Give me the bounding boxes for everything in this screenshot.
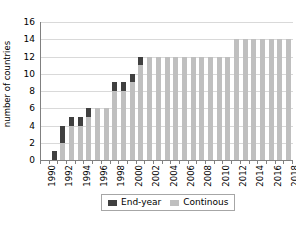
bar-group <box>199 57 204 161</box>
bar-segment-continuous <box>191 57 196 161</box>
bar-group <box>225 57 230 161</box>
x-tick-label: 2014 <box>256 165 265 187</box>
bar-group <box>60 126 65 161</box>
y-tick-label: 0 <box>29 156 35 165</box>
bar-segment-continuous <box>208 57 213 161</box>
x-tick-mark <box>275 160 276 164</box>
bar-segment-continuous <box>225 57 230 161</box>
bar-group <box>130 74 135 160</box>
bar-group <box>138 57 143 161</box>
bar-group <box>243 39 248 160</box>
bar-segment-continuous <box>138 65 143 160</box>
bar-group <box>78 117 83 160</box>
bar-segment-continuous <box>217 57 222 161</box>
bar-segment-continuous <box>156 57 161 161</box>
bar-group <box>182 57 187 161</box>
y-tick-label: 8 <box>29 87 35 96</box>
legend-entry: Continous <box>170 198 228 207</box>
bar-group <box>95 108 100 160</box>
bar-segment-continuous <box>251 39 256 160</box>
bar-segment-end-year <box>86 108 91 117</box>
x-tick-mark <box>188 160 189 164</box>
x-tick-label: 1996 <box>100 165 109 187</box>
continuous-swatch <box>170 200 179 206</box>
bar-group <box>52 151 57 160</box>
bar-group <box>112 82 117 160</box>
x-tick-mark <box>179 160 180 164</box>
y-tick-label: 14 <box>24 35 35 44</box>
x-tick-label: 2006 <box>187 165 196 187</box>
bar-segment-continuous <box>173 57 178 161</box>
bar-segment-end-year <box>78 117 83 126</box>
x-tick-mark <box>292 160 293 164</box>
bar-segment-continuous <box>199 57 204 161</box>
x-tick-label: 2008 <box>204 165 213 187</box>
x-tick-mark <box>162 160 163 164</box>
bar-segment-continuous <box>234 39 239 160</box>
y-axis-tick-labels: 0246810121416 <box>14 18 38 160</box>
bar-series-container <box>41 22 293 160</box>
bar-group <box>86 108 91 160</box>
plot-area <box>40 22 293 160</box>
bar-group <box>277 39 282 160</box>
bar-group <box>217 57 222 161</box>
bar-segment-continuous <box>243 39 248 160</box>
x-tick-mark <box>196 160 197 164</box>
legend-entry: End-year <box>108 198 161 207</box>
x-tick-mark <box>222 160 223 164</box>
bar-group <box>208 57 213 161</box>
x-tick-label: 1990 <box>48 165 57 187</box>
x-tick-mark <box>283 160 284 164</box>
bar-segment-continuous <box>147 57 152 161</box>
x-tick-label: 1994 <box>83 165 92 187</box>
x-tick-label: 2016 <box>274 165 283 187</box>
x-tick-mark <box>127 160 128 164</box>
y-tick-label: 4 <box>29 121 35 130</box>
x-tick-mark <box>249 160 250 164</box>
x-tick-label: 2010 <box>222 165 231 187</box>
bar-segment-continuous <box>130 82 135 160</box>
bar-segment-continuous <box>286 39 291 160</box>
bar-group <box>260 39 265 160</box>
x-tick-mark <box>40 160 41 164</box>
y-axis-title-label: number of countries <box>2 41 12 127</box>
bar-segment-end-year <box>52 151 57 160</box>
y-tick-label: 12 <box>24 52 35 61</box>
x-tick-label: 1992 <box>65 165 74 187</box>
bar-segment-continuous <box>112 91 117 160</box>
bar-segment-continuous <box>165 57 170 161</box>
x-tick-mark <box>205 160 206 164</box>
bar-group <box>191 57 196 161</box>
y-tick-label: 6 <box>29 104 35 113</box>
bar-segment-end-year <box>138 57 143 66</box>
bar-segment-end-year <box>60 126 65 143</box>
x-tick-mark <box>266 160 267 164</box>
bar-segment-continuous <box>86 117 91 160</box>
bar-chart: number of countries 0246810121416 199019… <box>0 0 296 228</box>
bar-segment-end-year <box>121 82 126 91</box>
x-tick-mark <box>101 160 102 164</box>
x-tick-label: 2012 <box>239 165 248 187</box>
bar-segment-continuous <box>260 39 265 160</box>
x-tick-mark <box>231 160 232 164</box>
x-tick-label: 2000 <box>135 165 144 187</box>
bar-segment-continuous <box>69 126 74 161</box>
x-tick-mark <box>66 160 67 164</box>
bar-group <box>156 57 161 161</box>
x-tick-mark <box>83 160 84 164</box>
x-tick-mark <box>170 160 171 164</box>
x-tick-mark <box>57 160 58 164</box>
x-tick-mark <box>49 160 50 164</box>
legend-label: End-year <box>121 198 161 207</box>
x-tick-label: 1998 <box>117 165 126 187</box>
x-tick-mark <box>136 160 137 164</box>
x-axis-tick-labels: 1990199219941996199820002002200420062008… <box>40 165 292 191</box>
bar-segment-continuous <box>277 39 282 160</box>
bar-segment-continuous <box>95 108 100 160</box>
legend-label: Continous <box>183 198 228 207</box>
x-tick-mark <box>257 160 258 164</box>
x-tick-mark <box>92 160 93 164</box>
y-tick-label: 10 <box>24 69 35 78</box>
bar-group <box>173 57 178 161</box>
bar-segment-continuous <box>104 108 109 160</box>
